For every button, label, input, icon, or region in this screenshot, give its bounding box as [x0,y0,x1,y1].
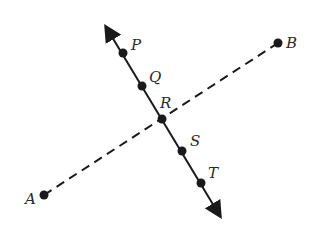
point-s [178,147,187,156]
point-label-r: R [159,94,171,112]
point-label-b: B [285,34,297,52]
point-r [158,115,167,124]
point-label-t: T [208,164,219,182]
point-t [197,179,206,188]
point-label-p: P [130,36,142,54]
point-a [40,191,49,200]
point-b [274,39,283,48]
point-q [138,82,147,91]
point-p [119,49,128,58]
geometry-diagram: PQRSTAB [0,0,309,241]
point-label-a: A [23,190,36,208]
point-label-s: S [190,132,200,150]
point-label-q: Q [149,68,161,86]
